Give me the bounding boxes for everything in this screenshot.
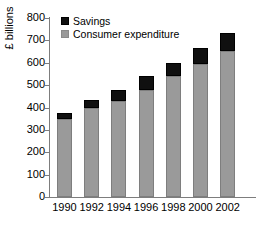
y-axis-tick-mark: [45, 108, 49, 109]
bar-segment-consumer-expenditure: [84, 108, 99, 197]
black-square-icon: [61, 17, 69, 25]
y-axis-tick-label: 200: [18, 146, 45, 157]
y-axis-tick-labels: 8007006005004003002001000: [18, 0, 45, 231]
bar-segment-consumer-expenditure: [57, 119, 72, 197]
y-axis-tick-mark: [45, 40, 49, 41]
y-axis-tick-mark: [45, 152, 49, 153]
y-axis-tick-mark: [45, 175, 49, 176]
y-axis-tick-mark: [45, 130, 49, 131]
bar-segment-consumer-expenditure: [139, 90, 154, 197]
plot-area: [49, 18, 255, 197]
bar-1990: [57, 113, 72, 197]
y-axis-tick-mark: [45, 63, 49, 64]
bar-segment-consumer-expenditure: [193, 64, 208, 197]
bar-1994: [111, 90, 126, 197]
y-axis-tick-label: 600: [18, 57, 45, 68]
bar-segment-consumer-expenditure: [166, 76, 181, 197]
bar-segment-consumer-expenditure: [220, 51, 235, 197]
y-axis-tick-label: 700: [18, 34, 45, 45]
gray-square-icon: [61, 30, 69, 38]
bar-1992: [84, 100, 99, 197]
y-axis-tick-mark: [45, 85, 49, 86]
bar-segment-savings: [220, 33, 235, 51]
bar-segment-savings: [111, 90, 126, 101]
y-axis-tick-mark: [45, 197, 49, 198]
bar-segment-savings: [57, 113, 72, 119]
x-axis-line: [49, 197, 256, 198]
bar-2000: [193, 48, 208, 197]
y-axis-tick-label: 300: [18, 124, 45, 135]
bar-segment-savings: [193, 48, 208, 64]
bar-segment-savings: [166, 63, 181, 76]
y-axis-tick-label: 0: [18, 191, 45, 202]
legend-item-label: Consumer expenditure: [73, 29, 179, 40]
y-axis-tick-label: 500: [18, 79, 45, 90]
x-axis-tick-labels: 1990199219941996199820002002: [49, 201, 255, 217]
stacked-bar-chart: £ billions 8007006005004003002001000 199…: [0, 0, 270, 231]
bar-segment-consumer-expenditure: [111, 101, 126, 197]
x-axis-tick-label-2002: 2002: [212, 201, 244, 214]
bar-1998: [166, 63, 181, 197]
bar-segment-savings: [139, 76, 154, 90]
y-axis-tick-label: 100: [18, 169, 45, 180]
bar-segment-savings: [84, 100, 99, 108]
y-axis-tick-mark: [45, 18, 49, 19]
legend-item: Consumer expenditure: [61, 28, 201, 40]
bar-1996: [139, 76, 154, 197]
bar-2002: [220, 33, 235, 197]
legend-item-label: Savings: [73, 16, 110, 27]
y-axis-tick-label: 400: [18, 102, 45, 113]
y-axis-title: £ billions: [3, 0, 19, 78]
legend-item: Savings: [61, 15, 201, 27]
chart-legend: SavingsConsumer expenditure: [61, 15, 201, 41]
y-axis-tick-label: 800: [18, 12, 45, 23]
